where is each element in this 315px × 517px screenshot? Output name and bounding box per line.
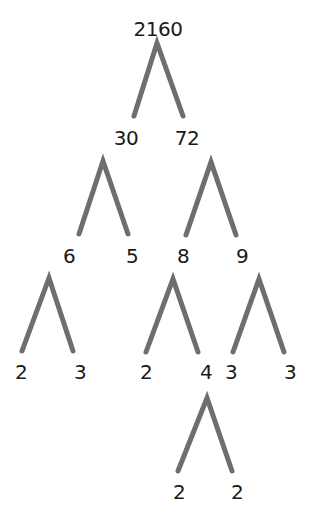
branch-4 xyxy=(178,398,232,471)
branch-9 xyxy=(233,279,284,352)
branch-30 xyxy=(79,161,128,234)
node-2-leaf-c: 2 xyxy=(173,482,185,502)
node-30: 30 xyxy=(114,128,138,148)
node-72: 72 xyxy=(175,128,199,148)
branch-8 xyxy=(146,279,198,352)
node-5: 5 xyxy=(126,246,138,266)
branch-72 xyxy=(186,162,236,235)
branch-2160 xyxy=(134,43,183,116)
node-9: 9 xyxy=(236,246,248,266)
node-3-leaf-c: 3 xyxy=(284,362,296,382)
node-3-leaf-a: 3 xyxy=(74,362,86,382)
node-8: 8 xyxy=(177,246,189,266)
node-2160: 2160 xyxy=(134,19,183,39)
node-6: 6 xyxy=(63,246,75,266)
node-2-leaf-a: 2 xyxy=(15,362,27,382)
node-2-leaf-d: 2 xyxy=(231,482,243,502)
branch-layer xyxy=(0,0,315,517)
factor-tree-diagram: 2160 30 72 6 5 8 9 2 3 2 4 3 3 2 2 xyxy=(0,0,315,517)
node-4: 4 xyxy=(200,362,212,382)
node-2-leaf-b: 2 xyxy=(140,362,152,382)
node-3-leaf-b: 3 xyxy=(225,362,237,382)
branch-6 xyxy=(22,278,73,351)
